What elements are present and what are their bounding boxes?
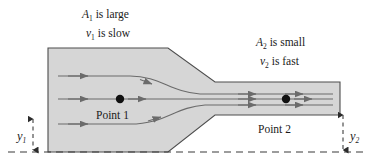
inlet-speed-label: v1 is slow [86,27,131,42]
pipe-flow-figure: A1 is large v1 is slow A2 is small v2 is… [0,0,376,165]
point-1-marker [116,95,124,103]
point-2-marker [282,95,290,103]
point-2-label: Point 2 [258,123,291,135]
height-2-label: y2 [348,129,360,145]
outlet-area-label: A2 is small [255,36,305,51]
point-1-label: Point 1 [96,109,129,121]
outlet-speed-label: v2 is fast [260,55,300,70]
inlet-area-label: A1 is large [81,8,129,23]
diagram-canvas: A1 is large v1 is slow A2 is small v2 is… [0,0,376,165]
height-1-label: y1 [15,129,26,145]
